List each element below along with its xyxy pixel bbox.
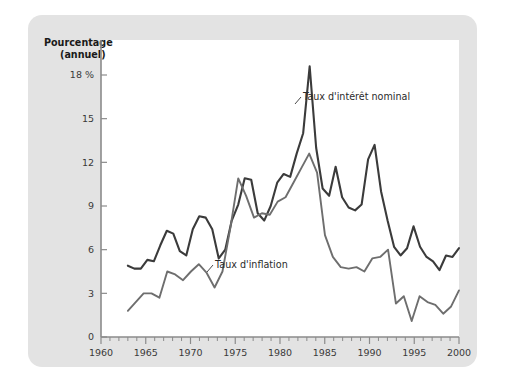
y-tick-label: 3 [88, 288, 94, 299]
y-tick-label: 6 [88, 244, 94, 255]
x-tick-label: 1960 [89, 347, 113, 358]
series-annotation-label: Taux d'inflation [214, 259, 288, 270]
y-tick-label: 0 [88, 331, 94, 342]
y-tick-label: 12 [82, 157, 94, 168]
chart-container: Pourcentage (annuel) 0369121518 % 196019… [0, 0, 505, 382]
x-tick-label: 1995 [402, 347, 426, 358]
y-axis: 0369121518 % [70, 40, 107, 342]
x-axis: 196019651970197519801985199019952000 [89, 337, 471, 358]
line-chart: Pourcentage (annuel) 0369121518 % 196019… [0, 0, 505, 382]
x-tick-label: 1980 [268, 347, 292, 358]
x-tick-label: 1985 [313, 347, 337, 358]
x-tick-label: 1975 [223, 347, 247, 358]
x-tick-label: 2000 [447, 347, 471, 358]
x-tick-label: 1970 [178, 347, 202, 358]
x-tick-label: 1990 [357, 347, 381, 358]
y-axis-title-line2: (annuel) [60, 49, 106, 60]
plot-background [101, 40, 459, 337]
y-tick-label: 18 % [70, 69, 94, 80]
y-tick-label: 9 [88, 200, 94, 211]
x-tick-label: 1965 [134, 347, 158, 358]
y-axis-title-line1: Pourcentage [44, 37, 113, 48]
series-annotation-label: Taux d'intérêt nominal [302, 91, 410, 102]
y-tick-label: 15 [82, 113, 94, 124]
